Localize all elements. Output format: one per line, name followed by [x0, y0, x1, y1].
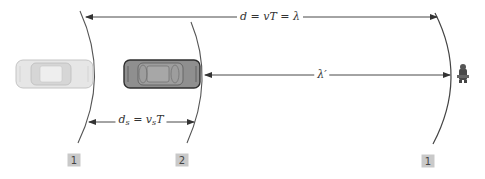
source-distance-period: T	[156, 113, 163, 126]
wavefront-marker-2: 2	[176, 154, 189, 167]
source-distance-equals: = v	[130, 113, 152, 126]
wavefront-marker-1-right: 1	[422, 155, 435, 168]
wavefront-1-right	[433, 13, 451, 144]
source-displacement-label: ds = vsT	[115, 114, 166, 129]
source-distance-symbol: d	[118, 113, 125, 126]
wavefront-marker-1-left: 1	[68, 154, 81, 167]
observed-wavelength-label: λ′	[314, 69, 329, 81]
car-position-2	[124, 60, 200, 88]
doppler-diagram	[0, 0, 485, 179]
car-position-1	[16, 60, 93, 88]
observer-figure	[457, 64, 469, 83]
wavelength-label: d = vT = λ	[237, 11, 303, 23]
